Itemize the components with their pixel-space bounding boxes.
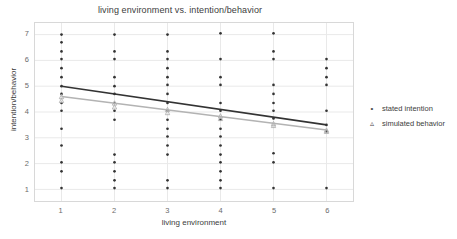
x-tick-label: 5 [264,206,284,215]
x-tick-label: 3 [157,206,177,215]
x-tick-label: 4 [211,206,231,215]
legend-item-label: stated intention [382,104,433,113]
plot-area [34,22,354,202]
legend-item-label: simulated behavior [382,119,445,128]
legend-item-simulated-behavior[interactable]: ▵ simulated behavior [366,116,456,131]
fit-lines-layer [62,86,327,130]
y-tick-label: 7 [7,29,29,38]
x-tick-label: 2 [104,206,124,215]
chart-title: living environment vs. intention/behavio… [0,5,360,15]
dot-marker-icon: • [366,105,378,113]
y-tick-label: 2 [7,159,29,168]
y-axis-label: intention/behavior [9,50,18,150]
chart-figure: living environment vs. intention/behavio… [0,0,457,239]
y-tick-label: 1 [7,185,29,194]
data-points-layer [59,32,328,189]
triangle-marker-icon: ▵ [366,120,378,128]
gridlines [35,23,353,201]
legend-item-stated-intention[interactable]: • stated intention [366,101,456,116]
x-tick-label: 1 [51,206,71,215]
plot-canvas [35,23,353,201]
x-axis-label: living environment [34,218,354,227]
chart-legend: • stated intention ▵ simulated behavior [366,101,456,131]
x-tick-label: 6 [317,206,337,215]
